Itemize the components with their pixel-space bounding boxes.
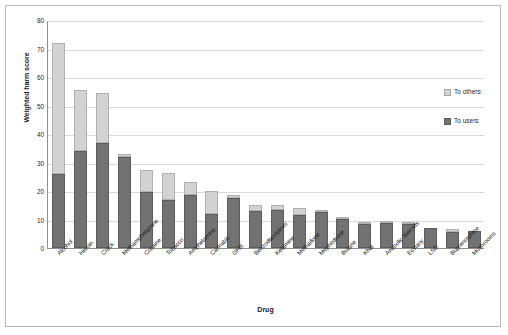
bar-segment-to-others[interactable] <box>446 229 459 233</box>
bar-segment-to-others[interactable] <box>52 43 65 174</box>
bar-segment-to-others[interactable] <box>336 217 349 219</box>
legend-swatch-icon-to-others <box>444 89 451 96</box>
x-axis-tick-labels: AlcoholHeroinCrackMethamphetamineCocaine… <box>47 250 484 308</box>
bar-segment-to-users[interactable] <box>96 143 109 248</box>
x-axis-title: Drug <box>47 306 484 313</box>
bar-segment-to-users[interactable] <box>74 151 87 248</box>
bar-segment-to-users[interactable] <box>52 174 65 248</box>
gridline <box>48 78 484 79</box>
chart-legend: To others To users <box>444 88 508 146</box>
gridline <box>48 21 484 22</box>
legend-label-to-users: To users <box>454 118 479 125</box>
legend-swatch-icon-to-users <box>444 118 451 125</box>
bar-segment-to-others[interactable] <box>380 221 393 223</box>
gridline <box>48 164 484 165</box>
y-axis-tick-label: 10 <box>20 217 44 224</box>
bar-segment-to-users[interactable] <box>118 157 131 248</box>
bar-segment-to-others[interactable] <box>184 182 197 195</box>
bar-segment-to-others[interactable] <box>118 154 131 157</box>
gridline <box>48 50 484 51</box>
bar-segment-to-others[interactable] <box>315 210 328 212</box>
gridline <box>48 107 484 108</box>
gridline <box>48 221 484 222</box>
bar-segment-to-others[interactable] <box>162 173 175 200</box>
bar-segment-to-others[interactable] <box>205 191 218 214</box>
legend-item-to-others: To others <box>444 88 508 96</box>
legend-item-to-users: To users <box>444 117 508 125</box>
bar-segment-to-others[interactable] <box>358 222 371 224</box>
chart-figure-frame: 01020304050607080 Weighted harm score To… <box>5 5 501 327</box>
bar-segment-to-users[interactable] <box>162 200 175 248</box>
bar-segment-to-others[interactable] <box>96 93 109 143</box>
gridline <box>48 135 484 136</box>
bar-segment-to-users[interactable] <box>184 195 197 248</box>
bar-segment-to-others[interactable] <box>227 195 240 198</box>
gridline <box>48 192 484 193</box>
bar-segment-to-users[interactable] <box>227 198 240 248</box>
bar-segment-to-others[interactable] <box>249 205 262 211</box>
legend-label-to-others: To others <box>454 89 481 96</box>
y-axis-tick-label: 30 <box>20 160 44 167</box>
y-axis-tick-label: 0 <box>20 246 44 253</box>
plot-area: To others To users <box>47 21 484 249</box>
bar-segment-to-others[interactable] <box>271 205 284 209</box>
bar-segment-to-users[interactable] <box>249 211 262 248</box>
bar-segment-to-others[interactable] <box>74 90 87 151</box>
y-axis-title: Weighted harm score <box>23 23 30 153</box>
y-axis-tick-label: 20 <box>20 189 44 196</box>
y-axis-tick-column: 01020304050607080 <box>16 21 44 249</box>
bar-segment-to-others[interactable] <box>293 208 306 215</box>
bar-segment-to-others[interactable] <box>140 170 153 193</box>
